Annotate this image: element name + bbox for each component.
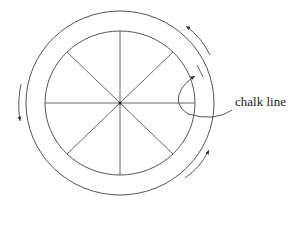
arrow-bottom-right: [185, 150, 209, 178]
chalk-line-label: chalk line: [235, 94, 286, 110]
arrow-left: [19, 84, 21, 121]
center-point: [119, 102, 122, 105]
chalk-line-pointer: [178, 76, 232, 117]
chalk-mark: [197, 65, 203, 77]
